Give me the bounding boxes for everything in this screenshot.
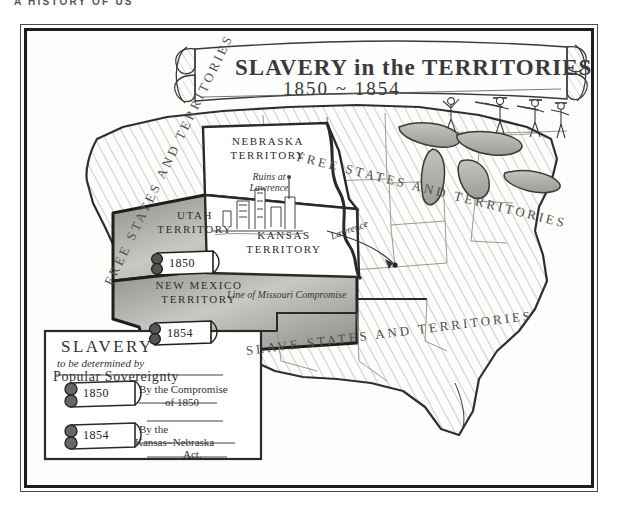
legend-text-1854: By the Kansas~Nebraska Act. [139,423,214,461]
new-mexico-year: 1854 [167,326,193,341]
utah-line1: UTAH [135,209,255,223]
nebraska-territory-label: NEBRASKA TERRITORY [213,135,323,163]
ruins-line2: Lawrence [223,182,315,193]
ruins-line1: Ruins at [223,171,315,182]
ks-line1: KANSAS [229,229,339,243]
legend-year-1850: 1850 [83,386,109,401]
legend-subtitle: to be determined by [57,357,144,369]
legend-1854-line3: Act. [183,448,214,461]
ne-line2: TERRITORY [213,149,323,163]
legend-text-1850: By the Compromise of 1850 [139,383,228,408]
legend-1850-line2: of 1850 [165,396,228,409]
plate-subtitle: 1850 ~ 1854 [283,78,401,100]
legend-1854-line2: Kansas~Nebraska [135,436,214,449]
legend-title: SLAVERY [61,337,154,357]
running-head: A HISTORY OF US [14,0,234,12]
legend-year-1854: 1854 [83,428,109,443]
map-plate: SLAVERY in the TERRITORIES 1850 ~ 1854 F… [27,31,591,485]
ks-line2: TERRITORY [229,243,339,257]
legend-1850-line1: By the Compromise [139,383,228,396]
illustration-page: A HISTORY OF US [0,0,618,515]
legend-1854-line1: By the [139,423,214,436]
utah-year: 1850 [169,256,195,271]
ruins-at-lawrence-caption: Ruins at Lawrence [223,171,315,193]
kansas-territory-label: KANSAS TERRITORY [229,229,339,257]
missouri-compromise-label: Line of Missouri Compromise [227,289,346,300]
ne-line1: NEBRASKA [213,135,323,149]
